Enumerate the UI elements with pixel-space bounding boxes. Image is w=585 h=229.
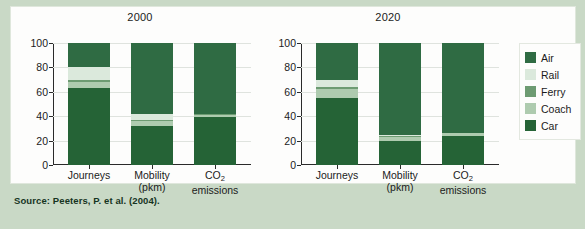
figure-container: 2000 020406080100JourneysMobility(pkm)CO… — [0, 0, 585, 229]
y-tick-mark — [49, 141, 53, 142]
y-tick-label: 20 — [284, 135, 296, 147]
legend-item-coach[interactable]: Coach — [525, 100, 576, 117]
legend-swatch-rail — [525, 69, 536, 80]
bar-segment-air — [379, 43, 421, 135]
y-tick-label: 80 — [284, 61, 296, 73]
legend-item-air[interactable]: Air — [525, 49, 576, 66]
x-axis-label-subscript: 2 — [221, 174, 225, 183]
y-tick-label: 0 — [290, 159, 296, 171]
x-axis-label-line1: Journeys — [68, 169, 111, 181]
bar-co2-emissions[interactable] — [194, 43, 236, 165]
legend: AirRailFerryCoachCar — [519, 43, 581, 140]
y-tick-mark — [297, 116, 301, 117]
y-tick-mark — [297, 67, 301, 68]
y-tick-mark — [297, 165, 301, 166]
legend-label: Car — [541, 120, 558, 132]
x-axis-label-line1: CO — [453, 169, 469, 181]
y-tick-label: 100 — [278, 37, 296, 49]
bar-segment-car — [379, 141, 421, 165]
y-tick-mark — [297, 141, 301, 142]
bar-segment-air — [442, 43, 484, 133]
legend-label: Air — [541, 52, 554, 64]
y-tick-label: 40 — [284, 110, 296, 122]
legend-item-rail[interactable]: Rail — [525, 66, 576, 83]
y-tick-label: 100 — [30, 37, 48, 49]
legend-swatch-coach — [525, 103, 536, 114]
x-axis-label-line2: emissions — [178, 184, 252, 196]
y-tick-label: 80 — [36, 61, 48, 73]
bar-segment-air — [68, 43, 110, 67]
chart-2000-title: 2000 — [11, 11, 269, 23]
legend-label: Ferry — [541, 86, 566, 98]
legend-label: Coach — [541, 103, 571, 115]
chart-2000-plot: 020406080100JourneysMobility(pkm)CO2emis… — [53, 43, 251, 165]
bar-segment-air — [131, 43, 173, 114]
bar-segment-coach — [316, 89, 358, 98]
bar-segment-rail — [316, 80, 358, 87]
chart-2020: 2020 020406080100JourneysMobility(pkm)CO… — [259, 7, 517, 185]
legend-item-car[interactable]: Car — [525, 117, 576, 134]
y-tick-label: 40 — [36, 110, 48, 122]
x-axis-label-line2: emissions — [426, 184, 500, 196]
x-axis-label-line1: Mobility — [382, 169, 418, 181]
legend-swatch-air — [525, 52, 536, 63]
y-tick-label: 0 — [42, 159, 48, 171]
legend-swatch-car — [525, 120, 536, 131]
y-tick-mark — [49, 67, 53, 68]
y-tick-mark — [49, 92, 53, 93]
bar-segment-air — [316, 43, 358, 80]
bar-mobility-pkm[interactable] — [131, 43, 173, 165]
x-axis-label-line1: Journeys — [316, 169, 359, 181]
x-axis-label: CO2emissions — [426, 169, 500, 196]
chart-2020-plot: 020406080100JourneysMobility(pkm)CO2emis… — [301, 43, 499, 165]
bar-segment-car — [316, 98, 358, 165]
legend-label: Rail — [541, 69, 559, 81]
chart-2000: 2000 020406080100JourneysMobility(pkm)CO… — [11, 7, 269, 185]
bar-mobility-pkm[interactable] — [379, 43, 421, 165]
bar-segment-rail — [68, 67, 110, 79]
bar-segment-car — [194, 117, 236, 165]
x-axis-label-line1: Mobility — [134, 169, 170, 181]
y-tick-label: 20 — [36, 135, 48, 147]
source-note: Source: Peeters, P. et al. (2004). — [14, 195, 160, 206]
chart-2020-title: 2020 — [259, 11, 517, 23]
bar-segment-air — [194, 43, 236, 114]
bar-co2-emissions[interactable] — [442, 43, 484, 165]
x-axis-label-line1: CO — [205, 169, 221, 181]
x-axis-label-subscript: 2 — [469, 174, 473, 183]
bar-segment-car — [442, 136, 484, 165]
chart-panel: 2000 020406080100JourneysMobility(pkm)CO… — [10, 6, 576, 184]
x-axis-label: CO2emissions — [178, 169, 252, 196]
legend-swatch-ferry — [525, 86, 536, 97]
legend-item-ferry[interactable]: Ferry — [525, 83, 576, 100]
y-tick-label: 60 — [36, 86, 48, 98]
y-tick-mark — [49, 116, 53, 117]
y-tick-mark — [297, 92, 301, 93]
y-tick-mark — [297, 43, 301, 44]
y-tick-mark — [49, 43, 53, 44]
y-axis-line — [53, 43, 54, 165]
y-tick-label: 60 — [284, 86, 296, 98]
y-axis-line — [301, 43, 302, 165]
y-tick-mark — [49, 165, 53, 166]
bar-journeys[interactable] — [316, 43, 358, 165]
bar-segment-car — [68, 88, 110, 165]
bar-journeys[interactable] — [68, 43, 110, 165]
bar-segment-car — [131, 126, 173, 165]
